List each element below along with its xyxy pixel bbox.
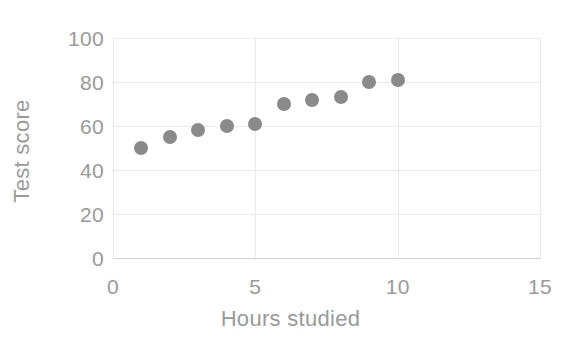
data-point xyxy=(163,130,177,144)
gridline-vertical xyxy=(540,38,541,258)
x-axis-line xyxy=(113,258,541,259)
gridline-horizontal xyxy=(113,214,540,215)
gridline-horizontal xyxy=(113,126,540,127)
y-axis-tick-labels: 020406080100 xyxy=(40,0,104,347)
y-axis-tick-label: 40 xyxy=(80,160,104,181)
y-axis-tick-label: 100 xyxy=(68,28,104,49)
gridline-horizontal xyxy=(113,82,540,83)
y-axis-tick-label: 20 xyxy=(80,204,104,225)
gridline-vertical xyxy=(398,38,399,258)
y-axis-tick-label: 60 xyxy=(80,116,104,137)
data-point xyxy=(220,119,234,133)
data-point xyxy=(134,141,148,155)
plot-area xyxy=(113,38,540,258)
x-axis-tick-label: 15 xyxy=(528,276,552,297)
x-axis-tick-label: 10 xyxy=(386,276,410,297)
gridline-horizontal xyxy=(113,170,540,171)
x-axis-tick-label: 0 xyxy=(107,276,119,297)
x-axis-tick-label: 5 xyxy=(249,276,261,297)
data-point xyxy=(391,73,405,87)
y-axis-title: Test score xyxy=(11,91,33,211)
y-axis-tick-label: 0 xyxy=(92,248,104,269)
gridline-horizontal xyxy=(113,38,540,39)
data-point xyxy=(277,97,291,111)
x-axis-title: Hours studied xyxy=(0,308,581,330)
data-point xyxy=(362,75,376,89)
data-point xyxy=(305,93,319,107)
gridline-vertical xyxy=(113,38,114,258)
data-point xyxy=(334,90,348,104)
data-point xyxy=(248,117,262,131)
data-point xyxy=(191,123,205,137)
y-axis-tick-label: 80 xyxy=(80,72,104,93)
gridline-vertical xyxy=(255,38,256,258)
scatter-chart: 020406080100 051015 Hours studied Test s… xyxy=(0,0,581,347)
